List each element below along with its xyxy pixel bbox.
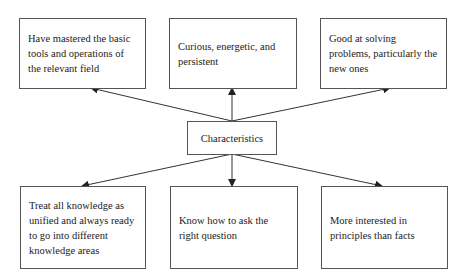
bottom-right-box-label: More interested in principles than facts xyxy=(330,213,439,243)
top-right-box-label: Good at solving problems, particularly t… xyxy=(329,31,438,76)
arrow-to-top-right xyxy=(232,88,390,121)
top-left-box-label: Have mastered the basic tools and operat… xyxy=(28,31,137,76)
center-box: Characteristics xyxy=(187,121,277,155)
bottom-middle-box: Know how to ask the right question xyxy=(170,186,298,269)
top-left-box: Have mastered the basic tools and operat… xyxy=(19,18,146,89)
top-right-box: Good at solving problems, particularly t… xyxy=(320,18,447,89)
top-middle-box: Curious, energetic, and persistent xyxy=(169,18,297,89)
bottom-middle-box-label: Know how to ask the right question xyxy=(179,213,289,243)
bottom-right-box: More interested in principles than facts xyxy=(321,186,448,269)
arrow-to-top-left xyxy=(91,88,232,121)
center-box-label: Characteristics xyxy=(201,131,263,146)
top-middle-box-label: Curious, energetic, and persistent xyxy=(178,39,288,69)
arrow-to-bottom-right xyxy=(232,154,382,186)
bottom-left-box: Treat all knowledge as unified and alway… xyxy=(20,186,146,269)
bottom-left-box-label: Treat all knowledge as unified and alway… xyxy=(29,198,137,258)
arrow-to-bottom-left xyxy=(82,154,232,186)
